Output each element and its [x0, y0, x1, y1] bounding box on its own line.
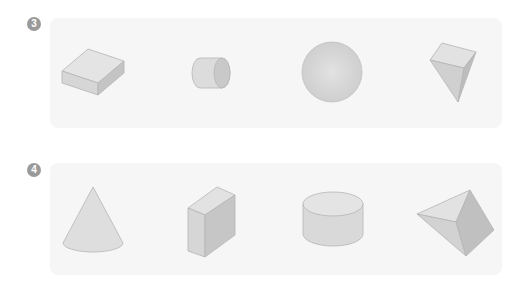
problem-4-number-badge: 4: [27, 163, 41, 177]
sphere-shape: [300, 40, 364, 104]
square-pyramid-shape: [426, 38, 482, 106]
cylinder-upright-shape: [300, 190, 366, 252]
cone-shape: [60, 185, 126, 257]
triangular-pyramid-shape: [414, 186, 496, 260]
flat-rectangular-prism-shape: [58, 45, 128, 100]
rectangular-prism-upright-shape: [185, 183, 237, 261]
problem-3-number-badge: 3: [27, 17, 41, 31]
cylinder-lying-shape: [188, 55, 238, 91]
